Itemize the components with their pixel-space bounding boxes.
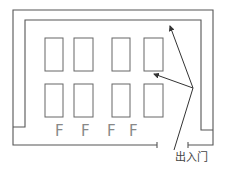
f-label: F <box>55 122 64 140</box>
arrow-line-to-entrance <box>174 88 193 150</box>
stall <box>112 38 130 71</box>
f-label: F <box>81 122 90 140</box>
stall <box>112 84 130 117</box>
arrow-up-icon <box>170 26 193 88</box>
stall <box>74 38 93 71</box>
f-label: F <box>107 122 116 140</box>
stall <box>45 84 63 117</box>
f-label: F <box>129 122 138 140</box>
stall <box>45 38 63 71</box>
door-label: 出入门 <box>175 150 208 164</box>
stall <box>144 84 163 117</box>
stalls-top-row <box>45 38 163 71</box>
stalls-bottom-row <box>45 84 163 117</box>
stall <box>144 38 163 71</box>
floor-plan-diagram: F F F F 出入门 <box>0 0 225 171</box>
stall <box>74 84 93 117</box>
